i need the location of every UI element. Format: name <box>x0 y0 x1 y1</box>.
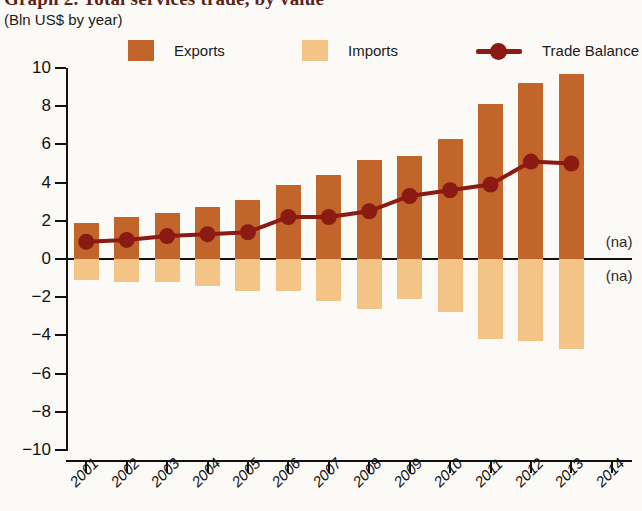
y-tick-label: −6 <box>32 364 51 384</box>
bar-exports-2002[interactable] <box>114 217 139 259</box>
zero-baseline <box>66 258 632 260</box>
y-tick-label: 10 <box>32 58 51 78</box>
chart-subtitle: (Bln US$ by year) <box>4 11 122 28</box>
y-tick-label: −4 <box>32 325 51 345</box>
y-tick-mark <box>55 220 66 222</box>
bar-exports-2006[interactable] <box>276 185 301 259</box>
y-tick-label: −10 <box>22 440 51 460</box>
bar-exports-2013[interactable] <box>559 74 584 259</box>
bar-exports-2001[interactable] <box>74 223 99 259</box>
bar-imports-2005[interactable] <box>235 259 260 291</box>
bar-exports-2011[interactable] <box>478 104 503 259</box>
y-tick-mark <box>55 334 66 336</box>
y-tick-label: −8 <box>32 402 51 422</box>
chart-container: Graph 2. Total services trade, by value … <box>0 0 642 511</box>
y-tick-mark <box>55 182 66 184</box>
y-tick-label: 4 <box>42 173 51 193</box>
line-marker-icon <box>476 40 522 61</box>
x-axis-line <box>66 460 632 462</box>
legend-label: Exports <box>174 42 225 59</box>
bar-imports-2013[interactable] <box>559 259 584 349</box>
legend-label: Trade Balance <box>542 42 639 59</box>
y-tick-label: 2 <box>42 211 51 231</box>
y-tick-mark <box>55 296 66 298</box>
bar-imports-2001[interactable] <box>74 259 99 280</box>
plot-area: 1086420−2−4−6−8−10 (na)(na) 200120022003… <box>66 60 632 450</box>
square-swatch-icon <box>128 40 154 61</box>
y-tick-mark <box>55 411 66 413</box>
legend-item-exports[interactable]: Exports <box>128 39 225 61</box>
y-tick-label: 8 <box>42 96 51 116</box>
bar-imports-2003[interactable] <box>155 259 180 282</box>
bar-imports-2004[interactable] <box>195 259 220 286</box>
square-swatch-icon <box>302 40 328 61</box>
legend-item-imports[interactable]: Imports <box>302 39 398 61</box>
y-tick-mark <box>55 67 66 69</box>
bar-exports-2009[interactable] <box>397 156 422 259</box>
bar-exports-2005[interactable] <box>235 200 260 259</box>
y-tick-label: 0 <box>42 249 51 269</box>
bar-imports-2002[interactable] <box>114 259 139 282</box>
bar-imports-2011[interactable] <box>478 259 503 339</box>
bar-exports-2010[interactable] <box>438 139 463 259</box>
y-tick-mark <box>55 449 66 451</box>
y-tick-mark <box>55 143 66 145</box>
bar-exports-2003[interactable] <box>155 213 180 259</box>
trade-balance-line-layer <box>66 60 632 460</box>
bar-imports-2009[interactable] <box>397 259 422 299</box>
legend-item-trade-balance[interactable]: Trade Balance <box>476 39 639 61</box>
na-exports-2014: (na) <box>606 233 633 250</box>
y-tick-mark <box>55 105 66 107</box>
bar-imports-2008[interactable] <box>357 259 382 309</box>
chart-legend: ExportsImportsTrade Balance <box>128 39 634 61</box>
bar-exports-2008[interactable] <box>357 160 382 259</box>
y-tick-label: 6 <box>42 134 51 154</box>
bar-imports-2006[interactable] <box>276 259 301 291</box>
na-imports-2014: (na) <box>606 267 633 284</box>
chart-title: Graph 2. Total services trade, by value <box>4 0 324 10</box>
bar-exports-2004[interactable] <box>195 207 220 259</box>
y-tick-label: −2 <box>32 287 51 307</box>
bar-imports-2010[interactable] <box>438 259 463 312</box>
bar-imports-2012[interactable] <box>518 259 543 341</box>
bar-exports-2007[interactable] <box>316 175 341 259</box>
legend-label: Imports <box>348 42 398 59</box>
y-tick-mark <box>55 373 66 375</box>
bar-exports-2012[interactable] <box>518 83 543 259</box>
bar-imports-2007[interactable] <box>316 259 341 301</box>
y-tick-mark <box>55 258 66 260</box>
